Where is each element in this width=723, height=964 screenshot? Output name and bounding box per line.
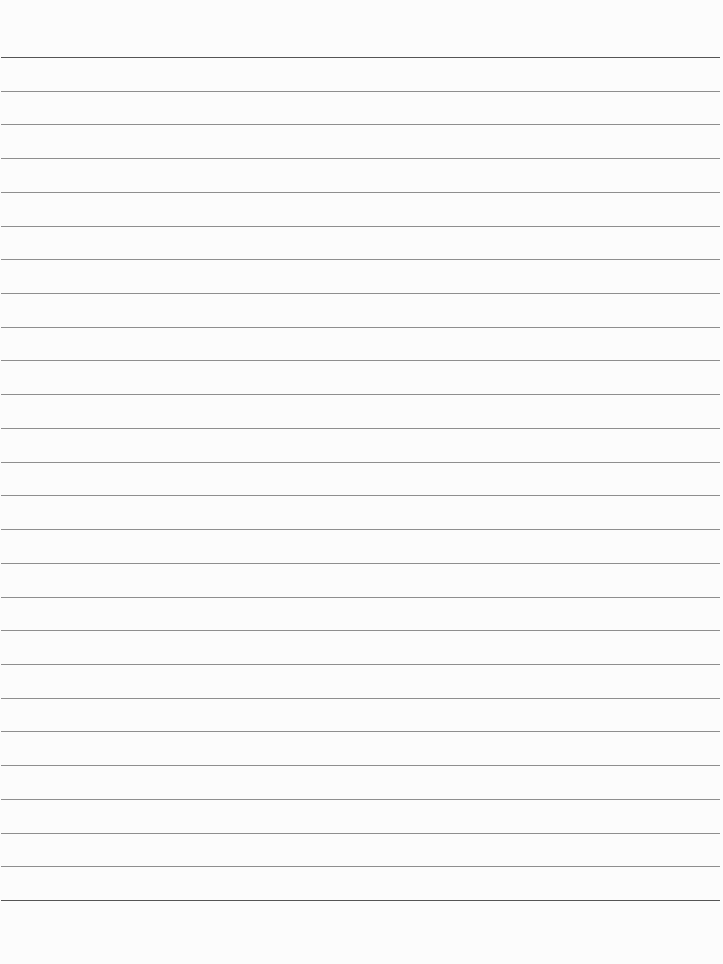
ruled-line: [1, 394, 720, 395]
ruled-line: [1, 866, 720, 867]
ruled-line: [1, 731, 720, 732]
ruled-line: [1, 630, 720, 631]
ruled-line: [1, 698, 720, 699]
ruled-line: [1, 900, 720, 901]
ruled-line: [1, 462, 720, 463]
ruled-line: [1, 91, 720, 92]
ruled-line: [1, 664, 720, 665]
ruled-line: [1, 192, 720, 193]
ruled-line: [1, 327, 720, 328]
ruled-line: [1, 293, 720, 294]
ruled-line: [1, 765, 720, 766]
ruled-line: [1, 360, 720, 361]
ruled-line: [1, 833, 720, 834]
ruled-line: [1, 799, 720, 800]
lined-paper-sheet: [0, 0, 723, 964]
ruled-line: [1, 124, 720, 125]
ruled-line: [1, 226, 720, 227]
ruled-line: [1, 597, 720, 598]
ruled-line: [1, 428, 720, 429]
ruled-line: [1, 529, 720, 530]
ruled-line: [1, 158, 720, 159]
ruled-line: [1, 495, 720, 496]
ruled-line: [1, 57, 720, 58]
ruled-line: [1, 259, 720, 260]
ruled-line: [1, 563, 720, 564]
